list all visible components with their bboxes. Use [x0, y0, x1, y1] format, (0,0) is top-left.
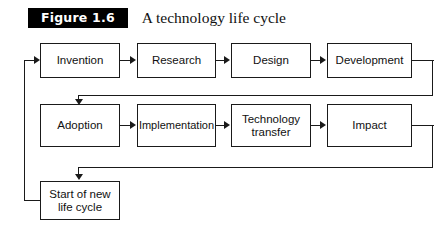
- arrowhead-start-in: [75, 174, 83, 180]
- arrowhead-development-in: [320, 56, 326, 64]
- connector-impact-down: [432, 125, 433, 168]
- node-adoption: Adoption: [40, 104, 120, 147]
- node-development: Development: [327, 43, 412, 78]
- node-development-label: Development: [333, 54, 407, 67]
- arrowhead-technology-transfer-in: [224, 121, 230, 129]
- node-design: Design: [231, 43, 311, 78]
- node-research: Research: [137, 43, 216, 78]
- connector-start-out: [24, 200, 41, 201]
- arrowhead-design-in: [224, 56, 230, 64]
- node-technology-transfer-label: Technology transfer: [239, 113, 303, 139]
- connector-feedback-up: [24, 60, 25, 201]
- figure-caption: Figure 1.6 A technology life cycle: [28, 7, 286, 29]
- node-impact: Impact: [327, 104, 412, 147]
- node-design-label: Design: [250, 54, 292, 67]
- figure-title: A technology life cycle: [142, 9, 286, 27]
- connector-development-across: [78, 95, 433, 96]
- connector-impact-out: [412, 125, 434, 126]
- node-start-of-new-life-cycle-label: Start of new life cycle: [46, 188, 113, 214]
- node-start-of-new-life-cycle: Start of new life cycle: [40, 181, 120, 220]
- figure-container: Figure 1.6 A technology life cycle Inven…: [0, 0, 446, 230]
- arrowhead-impact-in: [320, 121, 326, 129]
- node-invention-label: Invention: [54, 54, 107, 67]
- connector-development-down: [432, 60, 433, 96]
- connector-development-out: [412, 60, 434, 61]
- figure-number-tag: Figure 1.6: [28, 8, 128, 28]
- arrowhead-research-in: [130, 56, 136, 64]
- node-technology-transfer: Technology transfer: [231, 104, 311, 147]
- connector-impact-across: [78, 167, 433, 168]
- node-implementation-label: Implementation: [136, 119, 217, 132]
- node-research-label: Research: [149, 54, 204, 67]
- node-invention: Invention: [40, 43, 120, 78]
- node-adoption-label: Adoption: [54, 119, 105, 132]
- node-impact-label: Impact: [349, 119, 390, 132]
- node-implementation: Implementation: [137, 104, 216, 147]
